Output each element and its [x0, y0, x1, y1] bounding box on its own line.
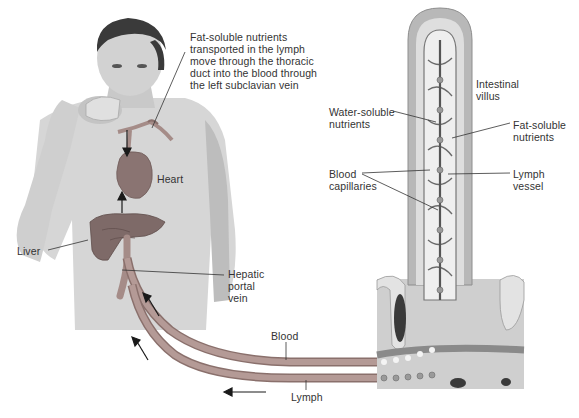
label-liver: Liver [17, 245, 40, 257]
label-hepatic-portal-vein: Hepatic portal vein [228, 268, 264, 304]
arrow-up-left-lymph-icon [132, 337, 148, 360]
label-fat-soluble-nutrients: Fat-soluble nutrients [513, 119, 566, 143]
label-blood: Blood [271, 330, 298, 342]
label-lymph: Lymph [291, 391, 323, 403]
arrow-left-lymph-icon [224, 388, 266, 396]
thoracic-duct-note: Fat-soluble nutrients transported in the… [190, 31, 317, 91]
label-lymph-vessel: Lymph vessel [513, 168, 545, 192]
intestinal-villus-illustration [377, 8, 524, 389]
label-water-soluble-nutrients: Water-soluble nutrients [329, 106, 395, 130]
label-blood-capillaries: Blood capillaries [329, 168, 377, 192]
label-heart: Heart [157, 173, 183, 185]
nutrient-transport-diagram: Fat-soluble nutrients transported in the… [0, 0, 579, 418]
label-intestinal-villus: Intestinal villus [476, 78, 519, 102]
